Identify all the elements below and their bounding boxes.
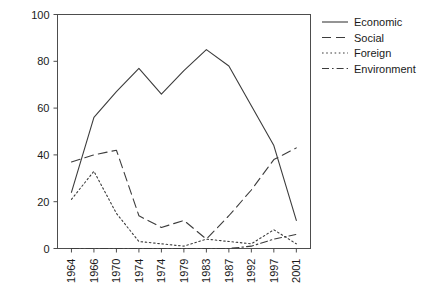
legend-label-environment: Environment bbox=[354, 63, 416, 75]
x-tick-label: 1992 bbox=[245, 259, 257, 283]
x-tick-label: 1997 bbox=[268, 259, 280, 283]
x-tick-label: 2001 bbox=[290, 259, 302, 283]
x-tick-label: 1966 bbox=[88, 259, 100, 283]
x-tick-label: 1964 bbox=[65, 259, 77, 283]
y-tick-label: 60 bbox=[37, 102, 49, 114]
y-tick-label: 100 bbox=[31, 9, 49, 21]
legend-label-social: Social bbox=[354, 32, 384, 44]
x-tick-label: 1974 bbox=[155, 259, 167, 283]
line-chart: 020406080100 196419661970197419741979198… bbox=[0, 0, 423, 303]
x-tick-label: 1983 bbox=[200, 259, 212, 283]
legend-label-foreign: Foreign bbox=[354, 47, 391, 59]
x-tick-label: 1979 bbox=[178, 259, 190, 283]
y-tick-label: 0 bbox=[43, 243, 49, 255]
chart-background bbox=[0, 0, 423, 303]
y-tick-label: 40 bbox=[37, 149, 49, 161]
x-tick-label: 1987 bbox=[223, 259, 235, 283]
chart-figure: 020406080100 196419661970197419741979198… bbox=[0, 0, 423, 303]
x-tick-label: 1974 bbox=[133, 259, 145, 283]
y-tick-label: 20 bbox=[37, 196, 49, 208]
x-tick-label: 1970 bbox=[110, 259, 122, 283]
y-tick-label: 80 bbox=[37, 55, 49, 67]
legend-label-economic: Economic bbox=[354, 16, 403, 28]
